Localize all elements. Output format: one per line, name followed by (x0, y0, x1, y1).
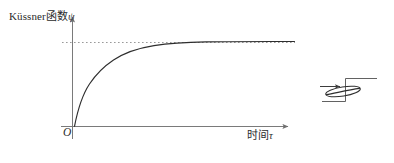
kussner-function-figure: Küssner函数ψ 时间τ O (0, 0, 394, 163)
plot-canvas (0, 0, 394, 163)
y-axis-label-text: Küssner函数 (9, 10, 68, 22)
x-axis-label-variable: τ (269, 130, 273, 141)
origin-label: O (63, 127, 71, 139)
airfoil-gust-diagram (320, 79, 377, 102)
x-axis-label-text: 时间 (247, 129, 269, 141)
x-axis-label: 时间τ (247, 130, 273, 142)
kussner-curve (75, 42, 295, 127)
y-axis-label: Küssner函数ψ (9, 11, 75, 23)
y-axis-label-variable: ψ (68, 11, 75, 22)
